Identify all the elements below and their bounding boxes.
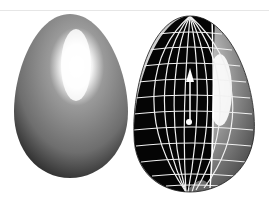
shaded-egg	[14, 14, 128, 178]
eggs-illustration	[0, 0, 269, 207]
cutaway-egg	[130, 10, 260, 200]
